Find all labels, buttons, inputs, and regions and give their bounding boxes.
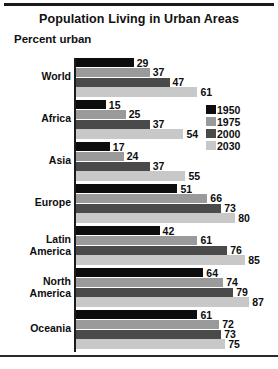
bar-row: 51: [76, 184, 276, 193]
bar-group: Latin America42617685: [0, 226, 278, 265]
bar-stack: 61727375: [76, 310, 278, 349]
bar: [76, 78, 170, 87]
bottom-divider: [0, 355, 278, 357]
bar-row: 64: [76, 268, 276, 277]
category-label: North America: [0, 276, 71, 299]
bar-value-label: 55: [185, 170, 200, 182]
bar-value-label: 76: [227, 244, 242, 256]
bar-value-label: 17: [110, 141, 125, 153]
bar-value-label: 80: [235, 212, 250, 224]
bar-row: 75: [76, 339, 276, 348]
bar: [76, 171, 185, 180]
category-label: Europe: [0, 198, 71, 210]
bar-stack: 29374761: [76, 58, 278, 97]
bar-row: 80: [76, 213, 276, 222]
chart-figure: Population Living in Urban Areas Percent…: [0, 0, 278, 369]
legend-item: 1975: [206, 116, 276, 127]
bar: [76, 152, 124, 161]
axis-label: Percent urban: [14, 33, 91, 45]
bar: [76, 68, 150, 77]
bar-value-label: 24: [124, 150, 139, 162]
legend-label: 2030: [216, 140, 240, 152]
bar: [76, 288, 233, 297]
bar-row: 29: [76, 58, 276, 67]
bar: [76, 100, 106, 109]
bar: [76, 278, 223, 287]
bar-row: 61: [76, 87, 276, 96]
bar-value-label: 37: [150, 160, 165, 172]
bar-row: 73: [76, 330, 276, 339]
bar-row: 47: [76, 78, 276, 87]
bar-stack: 51667380: [76, 184, 278, 223]
bar: [76, 320, 219, 329]
bar-value-label: 73: [221, 202, 236, 214]
bar-row: 55: [76, 171, 276, 180]
bar-row: 61: [76, 310, 276, 319]
bar: [76, 213, 235, 222]
legend-label: 1975: [216, 116, 240, 128]
legend-swatch-icon: [206, 129, 216, 138]
bar: [76, 204, 221, 213]
bar-value-label: 87: [249, 296, 264, 308]
bar-value-label: 75: [225, 338, 240, 350]
legend: 1950197520002030: [206, 104, 276, 152]
bar: [76, 310, 197, 319]
bar-value-label: 25: [126, 108, 141, 120]
bar: [76, 226, 160, 235]
legend-swatch-icon: [206, 117, 216, 126]
bar: [76, 330, 221, 339]
bar-group: North America64747987: [0, 268, 278, 307]
bar-value-label: 85: [245, 254, 260, 266]
bar-stack: 42617685: [76, 226, 278, 265]
bar: [76, 339, 225, 348]
bar: [76, 162, 150, 171]
bar-value-label: 54: [183, 128, 198, 140]
category-label: Asia: [0, 156, 71, 168]
bar-row: 87: [76, 297, 276, 306]
bar-value-label: 47: [170, 76, 185, 88]
bar-value-label: 61: [197, 86, 212, 98]
category-label: World: [0, 72, 71, 84]
bar: [76, 184, 177, 193]
bar-value-label: 29: [134, 57, 149, 69]
bar: [76, 120, 150, 129]
legend-label: 2000: [216, 128, 240, 140]
bar-value-label: 61: [197, 309, 212, 321]
bar: [76, 194, 207, 203]
bar-value-label: 37: [150, 66, 165, 78]
category-label: Oceania: [0, 324, 71, 336]
bar: [76, 110, 126, 119]
category-label: Latin America: [0, 234, 71, 257]
bar-stack: 64747987: [76, 268, 278, 307]
bar-value-label: 37: [150, 118, 165, 130]
bar: [76, 255, 245, 264]
plot-area: World29374761Africa15253754Asia17243755E…: [0, 56, 278, 354]
legend-swatch-icon: [206, 141, 216, 150]
bar-value-label: 64: [203, 267, 218, 279]
legend-item: 2000: [206, 128, 276, 139]
bar-row: 66: [76, 194, 276, 203]
legend-swatch-icon: [206, 105, 216, 114]
bar-row: 79: [76, 288, 276, 297]
legend-item: 2030: [206, 140, 276, 151]
bar-row: 61: [76, 236, 276, 245]
bar-group: World29374761: [0, 58, 278, 97]
bar-row: 72: [76, 320, 276, 329]
bar: [76, 297, 249, 306]
bar-value-label: 61: [197, 234, 212, 246]
bar-group: Oceania61727375: [0, 310, 278, 349]
bar: [76, 142, 110, 151]
page-title: Population Living in Urban Areas: [0, 12, 278, 26]
category-label: Africa: [0, 114, 71, 126]
legend-item: 1950: [206, 104, 276, 115]
bar-row: 42: [76, 226, 276, 235]
bar: [76, 268, 203, 277]
top-divider: [4, 3, 274, 6]
bar-value-label: 79: [233, 286, 248, 298]
bar-group: Europe51667380: [0, 184, 278, 223]
bar-value-label: 66: [207, 192, 222, 204]
bar: [76, 129, 183, 138]
bar: [76, 87, 197, 96]
bar: [76, 246, 227, 255]
bar-row: 24: [76, 152, 276, 161]
